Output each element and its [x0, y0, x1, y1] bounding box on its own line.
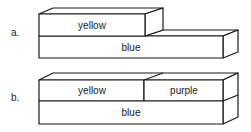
- purple-label-b: purple: [170, 85, 198, 96]
- diagram-b: b. yellow purple blue: [11, 73, 238, 124]
- blue-label-b: blue: [122, 107, 141, 118]
- diagram-a-label: a.: [11, 27, 19, 38]
- top-face-b: [39, 73, 238, 80]
- yellow-label-b: yellow: [78, 85, 107, 96]
- block-diagram: a. blue yellow b. yel: [0, 0, 251, 132]
- yellow-label-a: yellow: [78, 20, 107, 31]
- diagram-b-label: b.: [11, 92, 19, 103]
- blue-label-a: blue: [122, 42, 141, 53]
- yellow-top-face: [39, 8, 163, 14]
- yellow-block-a: yellow: [39, 8, 163, 36]
- diagram-a: a. blue yellow: [11, 8, 238, 58]
